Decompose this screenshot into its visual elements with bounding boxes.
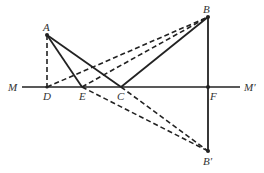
- label-m: M: [7, 81, 18, 93]
- point-a: [45, 33, 49, 37]
- segment-ac: [47, 35, 121, 87]
- label-c: C: [117, 90, 125, 102]
- label-b: B: [203, 3, 210, 15]
- segment-cb: [121, 17, 208, 87]
- point-b-prime: [206, 149, 210, 153]
- label-e: E: [78, 90, 86, 102]
- label-d: D: [42, 90, 51, 102]
- label-f: F: [209, 90, 217, 102]
- segment-cb-prime-dashed: [121, 87, 208, 151]
- segment-eb-dashed: [82, 17, 208, 87]
- label-b-prime: B′: [203, 155, 213, 167]
- point-b: [206, 15, 210, 19]
- point-f: [206, 85, 210, 89]
- diagram-svg: A B M M′ D E C F B′: [0, 0, 264, 173]
- geometry-diagram: A B M M′ D E C F B′: [0, 0, 264, 173]
- point-d: [45, 85, 48, 88]
- label-m-prime: M′: [243, 81, 256, 93]
- label-a: A: [42, 21, 50, 33]
- segment-eb-prime-dashed: [82, 87, 208, 151]
